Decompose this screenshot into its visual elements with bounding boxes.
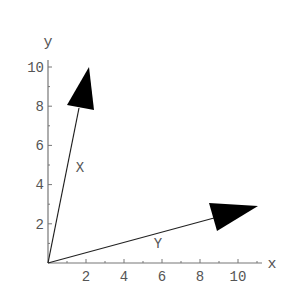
vector-x-label: X: [76, 160, 85, 176]
y-tick-label: 2: [36, 217, 44, 233]
x-tick-label: 2: [82, 269, 90, 285]
vector-y-shaft: [48, 218, 214, 263]
vector-x-shaft: [48, 108, 79, 263]
y-tick-label: 10: [27, 60, 44, 76]
vector-plot: 2 4 6 8 10 2 4 6 8 10 y x X Y: [0, 0, 294, 295]
vector-y-arrowhead-icon: [209, 203, 258, 231]
x-tick-label: 4: [120, 269, 128, 285]
x-tick-label: 10: [230, 269, 247, 285]
y-tick-label: 4: [36, 177, 44, 193]
x-tick-label: 6: [158, 269, 166, 285]
y-axis-label: y: [43, 34, 52, 51]
x-axis-label: x: [267, 256, 276, 273]
vector-y-label: Y: [154, 236, 163, 252]
x-tick-label: 8: [196, 269, 204, 285]
vector-x-arrowhead-icon: [67, 67, 94, 110]
y-tick-label: 6: [36, 138, 44, 154]
y-tick-label: 8: [36, 99, 44, 115]
